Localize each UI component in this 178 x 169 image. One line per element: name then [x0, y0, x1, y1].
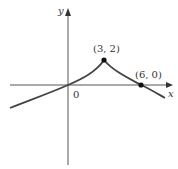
y-axis-label: y: [57, 5, 64, 16]
graph: y x 0 (3, 2) (6, 0): [0, 0, 178, 169]
peak-label: (3, 2): [93, 43, 120, 54]
x-axis-label: x: [168, 88, 174, 99]
root-label: (6, 0): [135, 69, 162, 80]
origin-label: 0: [73, 89, 79, 100]
root-point: [138, 82, 143, 87]
y-axis-arrow-icon: [65, 8, 71, 16]
peak-point: [101, 57, 106, 62]
